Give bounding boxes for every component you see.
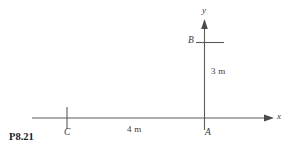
point-label-a: A <box>205 128 211 138</box>
x-axis-label: x <box>277 112 281 121</box>
figure-number-tag: P8.21 <box>9 132 34 143</box>
dimension-label-horizontal: 4 m <box>127 125 141 134</box>
y-axis-label: y <box>202 6 206 15</box>
point-label-b: B <box>188 36 194 46</box>
figure-geometry <box>0 0 295 152</box>
point-label-c: C <box>64 128 71 138</box>
physics-figure: y x B A C 3 m 4 m P8.21 <box>0 0 295 152</box>
y-axis-arrowhead <box>201 19 208 29</box>
x-axis-arrowhead <box>264 115 274 122</box>
dimension-label-vertical: 3 m <box>211 67 225 76</box>
